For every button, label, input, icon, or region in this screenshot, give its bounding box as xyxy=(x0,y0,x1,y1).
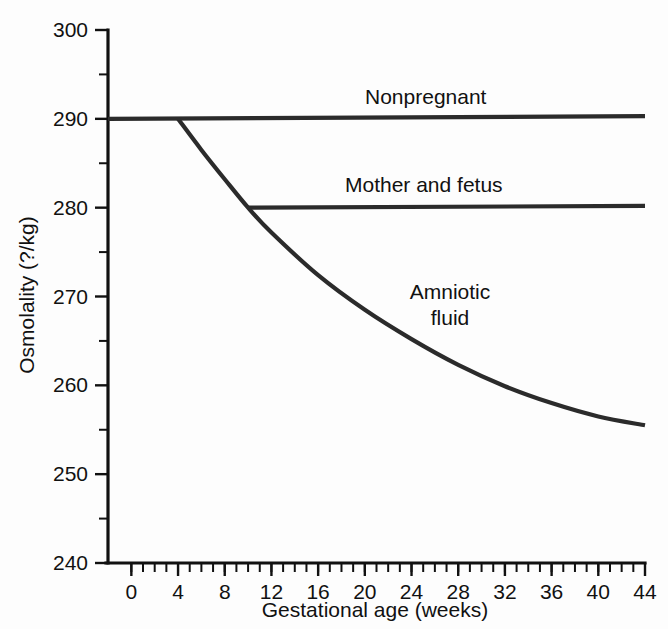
y-tick-label: 250 xyxy=(53,462,88,485)
y-tick-label: 280 xyxy=(53,196,88,219)
series-label-amniotic-fluid-line2: fluid xyxy=(431,306,470,329)
chart-figure: 240250260270280290300 048121620242832364… xyxy=(0,0,668,629)
series-line-nonpregnant xyxy=(108,116,645,119)
y-tick-label: 270 xyxy=(53,285,88,308)
y-axis-tick-labels: 240250260270280290300 xyxy=(53,18,88,574)
series-label-mother-and-fetus: Mother and fetus xyxy=(345,173,503,196)
x-tick-label: 44 xyxy=(633,580,657,603)
series-line-amniotic-fluid xyxy=(178,119,645,425)
y-tick-label: 300 xyxy=(53,18,88,41)
x-axis-title: Gestational age (weeks) xyxy=(262,598,488,621)
x-tick-label: 8 xyxy=(219,580,231,603)
y-tick-label: 260 xyxy=(53,373,88,396)
y-axis-ticks xyxy=(95,30,108,563)
y-axis-title: Osmolality (?/kg) xyxy=(15,216,38,374)
x-tick-label: 32 xyxy=(493,580,516,603)
series-line-mother-and-fetus xyxy=(248,206,645,208)
x-tick-label: 0 xyxy=(126,580,138,603)
y-tick-label: 240 xyxy=(53,551,88,574)
series-label-amniotic-fluid-line1: Amniotic xyxy=(410,280,491,303)
y-tick-label: 290 xyxy=(53,107,88,130)
x-tick-label: 36 xyxy=(540,580,563,603)
chart-series-lines xyxy=(108,116,645,425)
series-label-nonpregnant: Nonpregnant xyxy=(365,85,487,108)
x-tick-label: 4 xyxy=(172,580,184,603)
x-tick-label: 40 xyxy=(587,580,610,603)
osmolality-line-chart: 240250260270280290300 048121620242832364… xyxy=(0,0,668,629)
chart-axes xyxy=(106,30,645,563)
